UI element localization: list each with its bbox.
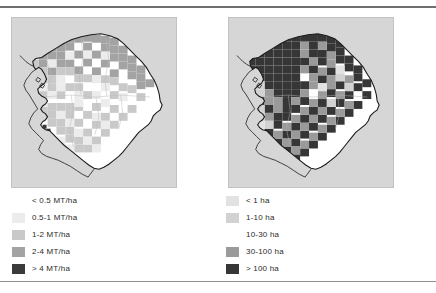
legend-item: 30-100 ha <box>226 244 416 259</box>
legend-label: > 4 MT/ha <box>32 264 70 274</box>
legend-label: > 100 ha <box>246 264 279 274</box>
legend-label: 30-100 ha <box>246 247 284 257</box>
legend-item: < 0.5 MT/ha <box>12 193 202 208</box>
legend-swatch <box>12 213 25 223</box>
sierra-leone-area-map-svg <box>229 18 393 187</box>
legend-label: 0.5-1 MT/ha <box>32 213 77 223</box>
legend-swatch <box>12 264 25 274</box>
sierra-leone-yield-map-svg <box>12 18 176 187</box>
legend-label: < 1 ha <box>246 196 270 206</box>
legend-item: > 4 MT/ha <box>12 261 202 276</box>
legend-yield: < 0.5 MT/ha 0.5-1 MT/ha 1-2 MT/ha 2-4 MT… <box>12 193 202 278</box>
figure-container: < 0.5 MT/ha 0.5-1 MT/ha 1-2 MT/ha 2-4 MT… <box>0 0 436 293</box>
legend-item: 10-30 ha <box>226 227 416 242</box>
legend-swatch <box>226 213 239 223</box>
legend-area: < 1 ha 1-10 ha 10-30 ha 30-100 ha > 100 … <box>226 193 416 278</box>
legend-label: 2-4 MT/ha <box>32 247 70 257</box>
legend-swatch <box>226 247 239 257</box>
map-panel-area[interactable] <box>228 17 394 188</box>
legend-label: 1-2 MT/ha <box>32 230 70 240</box>
top-horizontal-rule <box>0 6 436 8</box>
legend-label: 1-10 ha <box>246 213 275 223</box>
legend-label: < 0.5 MT/ha <box>32 196 77 206</box>
legend-swatch <box>226 196 239 206</box>
legend-item: 0.5-1 MT/ha <box>12 210 202 225</box>
legend-swatch <box>12 247 25 257</box>
legend-item: > 100 ha <box>226 261 416 276</box>
legend-swatch <box>226 230 239 240</box>
legend-swatch <box>12 230 25 240</box>
legend-item: < 1 ha <box>226 193 416 208</box>
legend-item: 1-2 MT/ha <box>12 227 202 242</box>
legend-swatch <box>12 196 25 206</box>
map-panels <box>0 17 436 189</box>
bottom-horizontal-rule <box>0 281 436 282</box>
legend-item: 1-10 ha <box>226 210 416 225</box>
legend-swatch <box>226 264 239 274</box>
legend-item: 2-4 MT/ha <box>12 244 202 259</box>
legend-label: 10-30 ha <box>246 230 279 240</box>
map-panel-yield[interactable] <box>11 17 177 188</box>
